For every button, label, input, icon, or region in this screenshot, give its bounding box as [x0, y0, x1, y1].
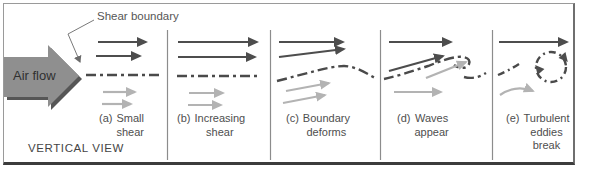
- panel-c-caption-text: Boundary deforms: [303, 112, 350, 139]
- panel-b-flow: [177, 42, 257, 105]
- shear-boundary-leader-line: [68, 20, 94, 62]
- panel-a-caption-text: Small shear: [116, 112, 144, 139]
- slow-flow-arrow: [283, 95, 325, 103]
- panel-e-caption: (e) Turbulent eddies break: [506, 112, 570, 153]
- panel-a-caption: (a) Small shear: [99, 112, 144, 139]
- panel-d-caption: (d) Waves appear: [397, 112, 449, 139]
- panel-e-caption-text: Turbulent eddies break: [523, 112, 569, 153]
- panel-a-prefix: (a): [99, 112, 112, 139]
- panel-d-prefix: (d): [397, 112, 410, 139]
- panel-dividers: [168, 30, 493, 160]
- vertical-view-label: VERTICAL VIEW: [28, 142, 124, 154]
- panel-c-flow: [277, 42, 375, 103]
- panel-a-flow: [86, 42, 161, 104]
- shear-boundary-line-deformed: [277, 66, 375, 81]
- shear-stages-figure: Shear boundary Air flow VERTICAL VIEW (a…: [0, 0, 596, 179]
- panel-c-caption: (c) Boundary deforms: [286, 112, 350, 139]
- panel-b-caption: (b) Increasing shear: [177, 112, 245, 139]
- eddy-lead-in-line: [498, 64, 519, 75]
- panel-d-caption-text: Waves appear: [414, 112, 448, 139]
- slow-flow-arrow: [286, 83, 329, 91]
- shear-boundary-label: Shear boundary: [97, 10, 179, 22]
- panel-b-prefix: (b): [177, 112, 190, 139]
- fast-flow-arrow: [279, 49, 344, 57]
- air-flow-label: Air flow: [13, 68, 56, 83]
- panel-b-caption-text: Increasing shear: [194, 112, 245, 139]
- panel-d-flow: [384, 42, 486, 92]
- panel-c-prefix: (c): [286, 112, 299, 139]
- panel-e-prefix: (e): [506, 112, 519, 153]
- eddy-arrowhead: [532, 62, 545, 75]
- panel-e-flow: [498, 42, 571, 95]
- fast-flow-arrow: [389, 56, 443, 71]
- shear-boundary-wave-tail: [464, 73, 486, 78]
- slow-flow-curved-arrow: [500, 88, 533, 95]
